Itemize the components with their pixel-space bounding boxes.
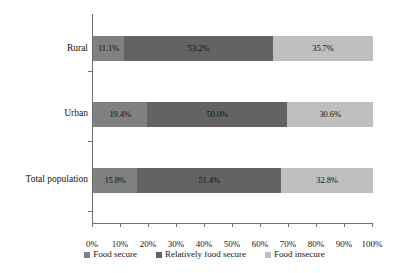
- legend-label: Food insecure: [274, 250, 325, 259]
- bar-row: 11.1% 53.2% 35.7%: [93, 36, 373, 61]
- y-axis-tick: [88, 71, 92, 72]
- legend-item-food-insecure: Food insecure: [265, 250, 325, 259]
- x-axis-tick: [148, 223, 149, 227]
- category-label-urban: Urban: [0, 109, 88, 119]
- bar-segment-relatively-food-secure: 53.2%: [124, 36, 273, 61]
- bar-segment-value: 11.1%: [98, 44, 119, 53]
- bar-segment-food-insecure: 35.7%: [273, 36, 373, 61]
- x-tick-label: 100%: [352, 240, 392, 249]
- bar-segment-value: 32.8%: [316, 176, 337, 185]
- y-axis-tick: [88, 211, 92, 212]
- x-axis-tick: [176, 223, 177, 227]
- legend-item-relatively-food-secure: Relatively food secure: [156, 250, 246, 259]
- bar-segment-value: 50.0%: [207, 110, 228, 119]
- x-axis-tick: [316, 223, 317, 227]
- bar-row: 15.8% 51.4% 32.8%: [93, 168, 373, 193]
- bar-segment-relatively-food-secure: 50.0%: [147, 102, 287, 127]
- x-axis-tick: [92, 223, 93, 227]
- plot-area: 0% 10% 20% 30% 40% 50% 60% 70% 80% 90% 1…: [92, 14, 373, 223]
- bar-segment-value: 19.4%: [109, 110, 130, 119]
- category-label-total-population: Total population: [0, 175, 88, 185]
- bar-segment-food-secure: 19.4%: [93, 102, 147, 127]
- legend-swatch-icon: [84, 252, 90, 258]
- bar-segment-value: 30.6%: [319, 110, 340, 119]
- x-axis-tick: [344, 223, 345, 227]
- bar-segment-value: 35.7%: [312, 44, 333, 53]
- legend-swatch-icon: [156, 252, 162, 258]
- y-axis-tick: [88, 141, 92, 142]
- category-label-rural: Rural: [0, 44, 88, 54]
- bar-segment-value: 53.2%: [188, 44, 209, 53]
- bar-segment-value: 15.8%: [104, 176, 125, 185]
- bar-segment-food-secure: 11.1%: [93, 36, 124, 61]
- bar-segment-relatively-food-secure: 51.4%: [137, 168, 281, 193]
- legend-item-food-secure: Food secure: [84, 250, 137, 259]
- bar-segment-food-insecure: 32.8%: [281, 168, 373, 193]
- x-axis-tick: [288, 223, 289, 227]
- chart-legend: Food secure Relatively food secure Food …: [0, 250, 409, 259]
- x-axis-tick: [372, 223, 373, 227]
- bar-segment-food-insecure: 30.6%: [287, 102, 373, 127]
- bar-segment-value: 51.4%: [198, 176, 219, 185]
- x-axis-tick: [232, 223, 233, 227]
- x-axis-tick: [260, 223, 261, 227]
- legend-label: Relatively food secure: [165, 250, 246, 259]
- x-axis-tick: [204, 223, 205, 227]
- legend-label: Food secure: [93, 250, 137, 259]
- x-axis-tick: [120, 223, 121, 227]
- stacked-bar-chart: Rural Urban Total population 0% 10% 20% …: [0, 0, 409, 273]
- legend-swatch-icon: [265, 252, 271, 258]
- bar-row: 19.4% 50.0% 30.6%: [93, 102, 373, 127]
- bar-segment-food-secure: 15.8%: [93, 168, 137, 193]
